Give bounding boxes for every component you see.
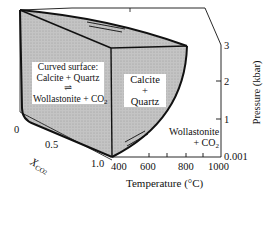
xco2-tick-05: 0.5 xyxy=(45,139,58,150)
curved-surface-label: Curved surface: Calcite + Quartz ⇌ Wolla… xyxy=(32,62,104,104)
field-line-quartz: Quartz xyxy=(125,96,165,107)
field-line-wollastonite: Wollastonite xyxy=(169,126,219,137)
pressure-tick-3: 3 xyxy=(224,40,229,51)
field-line-calcite: Calcite xyxy=(125,74,165,85)
curved-surface-title: Curved surface: xyxy=(33,62,103,73)
reaction-reactants: Calcite + Quartz xyxy=(33,73,103,84)
pressure-tick-1: 1 xyxy=(224,114,229,125)
calcite-quartz-field-label: Calcite + Quartz xyxy=(124,74,166,107)
wollastonite-co2-field-label: Wollastonite + CO2 xyxy=(169,126,219,148)
temperature-tick-600: 600 xyxy=(140,161,156,172)
temperature-tick-800: 800 xyxy=(178,161,194,172)
equilibrium-arrows-icon: ⇌ xyxy=(33,83,103,94)
pressure-tick-2: 2 xyxy=(224,76,229,87)
pressure-axis-title: Pressure (kbar) xyxy=(251,48,262,138)
temperature-axis-title: Temperature (°C) xyxy=(126,178,203,189)
xco2-tick-10: 1.0 xyxy=(91,158,104,169)
reaction-products: Wollastonite + CO2 xyxy=(33,94,103,105)
field-line-plus: + xyxy=(125,85,165,96)
temperature-tick-400: 400 xyxy=(111,161,127,172)
temperature-tick-1000: 1000 xyxy=(208,161,229,172)
field-line-co2: + CO2 xyxy=(169,137,219,148)
temperature-axis xyxy=(112,153,221,157)
xco2-tick-0: 0 xyxy=(14,124,19,135)
